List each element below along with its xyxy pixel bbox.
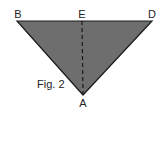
label-a: A [79, 97, 87, 109]
label-e: E [78, 8, 85, 20]
label-b: B [14, 8, 21, 20]
label-d: D [148, 8, 156, 20]
figure-caption: Fig. 2 [37, 78, 65, 90]
triangle-diagram: B E D A Fig. 2 [0, 0, 165, 154]
